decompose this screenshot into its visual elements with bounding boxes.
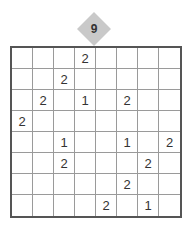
grid-cell-r7-c0[interactable] [12, 195, 33, 216]
grid-cell-r2-c3[interactable]: 1 [75, 90, 96, 111]
grid-cell-r5-c7[interactable] [159, 153, 180, 174]
grid-cell-r4-c7[interactable]: 2 [159, 132, 180, 153]
grid-cell-r2-c1[interactable]: 2 [33, 90, 54, 111]
grid-cell-r6-c7[interactable] [159, 174, 180, 195]
grid-cell-r2-c7[interactable] [159, 90, 180, 111]
grid-cell-r3-c7[interactable] [159, 111, 180, 132]
grid-cell-r3-c6[interactable] [138, 111, 159, 132]
grid-cell-r4-c5[interactable]: 1 [117, 132, 138, 153]
grid-cell-r1-c7[interactable] [159, 69, 180, 90]
grid-cell-r5-c2[interactable]: 2 [54, 153, 75, 174]
grid-cell-r0-c5[interactable] [117, 48, 138, 69]
grid-cell-r1-c3[interactable] [75, 69, 96, 90]
grid-cell-r5-c6[interactable]: 2 [138, 153, 159, 174]
grid-cell-r5-c1[interactable] [33, 153, 54, 174]
grid-cell-r6-c6[interactable] [138, 174, 159, 195]
grid-cell-r4-c4[interactable] [96, 132, 117, 153]
grid-cell-r7-c1[interactable] [33, 195, 54, 216]
grid-cell-r6-c1[interactable] [33, 174, 54, 195]
grid-cell-r4-c1[interactable] [33, 132, 54, 153]
grid-cell-r7-c6[interactable]: 1 [138, 195, 159, 216]
grid-cell-r1-c1[interactable] [33, 69, 54, 90]
grid-cell-r6-c4[interactable] [96, 174, 117, 195]
grid-cell-r0-c7[interactable] [159, 48, 180, 69]
grid-cell-r1-c4[interactable] [96, 69, 117, 90]
grid-cell-r3-c1[interactable] [33, 111, 54, 132]
grid-cell-r2-c4[interactable] [96, 90, 117, 111]
grid-cell-r6-c2[interactable] [54, 174, 75, 195]
grid-cell-r4-c2[interactable]: 1 [54, 132, 75, 153]
grid-cell-r3-c5[interactable] [117, 111, 138, 132]
grid-cell-r6-c0[interactable] [12, 174, 33, 195]
grid-cell-r3-c4[interactable] [96, 111, 117, 132]
grid-cell-r0-c6[interactable] [138, 48, 159, 69]
grid-cell-r0-c2[interactable] [54, 48, 75, 69]
grid-cell-r6-c3[interactable] [75, 174, 96, 195]
grid-cell-r1-c0[interactable] [12, 69, 33, 90]
puzzle-grid: 22212211222221 [10, 46, 182, 218]
grid-cell-r7-c3[interactable] [75, 195, 96, 216]
puzzle-number: 9 [82, 17, 106, 41]
grid-cell-r2-c2[interactable] [54, 90, 75, 111]
grid-cell-r5-c3[interactable] [75, 153, 96, 174]
grid-cell-r3-c2[interactable] [54, 111, 75, 132]
grid-cell-r4-c6[interactable] [138, 132, 159, 153]
grid-cell-r4-c3[interactable] [75, 132, 96, 153]
grid-cell-r4-c0[interactable] [12, 132, 33, 153]
grid-cell-r3-c3[interactable] [75, 111, 96, 132]
grid-cell-r0-c0[interactable] [12, 48, 33, 69]
grid-cell-r5-c4[interactable] [96, 153, 117, 174]
grid-cell-r0-c4[interactable] [96, 48, 117, 69]
grid-cell-r1-c2[interactable]: 2 [54, 69, 75, 90]
grid-cell-r7-c7[interactable] [159, 195, 180, 216]
grid-cell-r1-c6[interactable] [138, 69, 159, 90]
grid-cell-r2-c5[interactable]: 2 [117, 90, 138, 111]
grid-cell-r2-c0[interactable] [12, 90, 33, 111]
grid-cell-r5-c0[interactable] [12, 153, 33, 174]
grid-cell-r3-c0[interactable]: 2 [12, 111, 33, 132]
grid-cell-r6-c5[interactable]: 2 [117, 174, 138, 195]
grid-cell-r7-c2[interactable] [54, 195, 75, 216]
grid-cell-r0-c3[interactable]: 2 [75, 48, 96, 69]
grid-cell-r2-c6[interactable] [138, 90, 159, 111]
grid-cell-r0-c1[interactable] [33, 48, 54, 69]
grid-cell-r7-c4[interactable]: 2 [96, 195, 117, 216]
grid-cell-r5-c5[interactable] [117, 153, 138, 174]
grid-cell-r1-c5[interactable] [117, 69, 138, 90]
grid-cell-r7-c5[interactable] [117, 195, 138, 216]
